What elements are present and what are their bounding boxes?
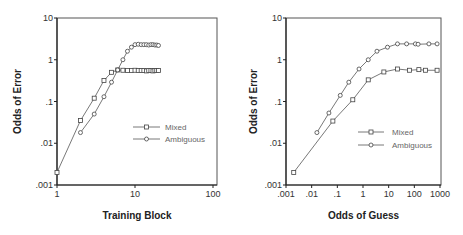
legend-label-ambiguous: Ambiguous: [165, 135, 205, 144]
x-tick-label: 10: [384, 189, 394, 199]
legend-circle-icon: [145, 137, 149, 141]
square-marker: [156, 69, 160, 73]
square-marker: [417, 68, 421, 72]
x-tick-label: 1: [54, 189, 59, 199]
circle-marker: [125, 49, 129, 53]
circle-marker: [395, 42, 399, 46]
y-axis-title: Odds of Error: [248, 69, 259, 134]
square-marker: [102, 78, 106, 82]
square-marker: [121, 68, 125, 72]
square-marker: [110, 70, 114, 74]
legend-label-mixed: Mixed: [392, 128, 413, 137]
legend-square-icon: [145, 125, 149, 129]
y-tick-label: .1: [274, 97, 282, 107]
x-tick-label: 1: [360, 189, 365, 199]
x-tick-label: 100: [205, 189, 220, 199]
circle-marker: [416, 42, 420, 46]
square-marker: [292, 170, 296, 174]
circle-marker: [357, 67, 361, 71]
series-line-ambiguous: [80, 44, 158, 132]
circle-marker: [121, 58, 125, 62]
square-marker: [331, 119, 335, 123]
y-tick-label: 1: [277, 55, 282, 65]
circle-marker: [92, 112, 96, 116]
legend: MixedAmbiguous: [133, 123, 205, 144]
x-axis-title: Odds of Guess: [328, 210, 400, 221]
circle-marker: [110, 80, 114, 84]
x-tick-label: .01: [305, 189, 318, 199]
circle-marker: [156, 43, 160, 47]
legend-square-icon: [369, 130, 373, 134]
y-tick-label: .01: [269, 138, 282, 148]
y-tick-label: .01: [40, 138, 53, 148]
y-tick-label: .1: [45, 97, 53, 107]
square-marker: [408, 68, 412, 72]
circle-marker: [375, 49, 379, 53]
series-line-mixed: [57, 70, 158, 172]
x-tick-label: .001: [277, 189, 295, 199]
circle-marker: [435, 42, 439, 46]
square-marker: [125, 69, 129, 73]
square-marker: [382, 70, 386, 74]
x-tick-label: .1: [334, 189, 342, 199]
square-marker: [395, 67, 399, 71]
circle-marker: [102, 95, 106, 99]
square-marker: [55, 170, 59, 174]
circle-marker: [129, 45, 133, 49]
circle-marker: [338, 93, 342, 97]
y-tick-label: 10: [272, 13, 282, 23]
y-axis-title: Odds of Error: [12, 69, 23, 134]
square-marker: [351, 98, 355, 102]
x-tick-label: 100: [407, 189, 422, 199]
legend-label-mixed: Mixed: [165, 123, 186, 132]
circle-marker: [366, 58, 370, 62]
square-marker: [92, 96, 96, 100]
series-line-mixed: [294, 69, 437, 172]
circle-marker: [405, 42, 409, 46]
circle-marker: [385, 45, 389, 49]
circle-marker: [116, 68, 120, 72]
square-marker: [366, 78, 370, 82]
legend-circle-icon: [369, 143, 373, 147]
chart-odds-of-guess: .001.01.1110.001.01.11101001000Odds of G…: [248, 13, 450, 221]
legend: MixedAmbiguous: [358, 128, 432, 150]
y-tick-label: 10: [43, 13, 53, 23]
legend-label-ambiguous: Ambiguous: [392, 141, 432, 150]
y-tick-label: 1: [48, 55, 53, 65]
x-tick-label: 1000: [430, 189, 450, 199]
figure: .001.01.1110110100Training BlockOdds of …: [0, 0, 463, 235]
circle-marker: [315, 131, 319, 135]
square-marker: [423, 68, 427, 72]
y-tick-label: .001: [35, 180, 53, 190]
x-axis-title: Training Block: [103, 210, 172, 221]
circle-marker: [78, 131, 82, 135]
x-tick-label: 10: [130, 189, 140, 199]
square-marker: [435, 68, 439, 72]
circle-marker: [427, 42, 431, 46]
chart-training-block: .001.01.1110110100Training BlockOdds of …: [12, 13, 221, 221]
circle-marker: [347, 80, 351, 84]
circle-marker: [327, 111, 331, 115]
square-marker: [78, 119, 82, 123]
